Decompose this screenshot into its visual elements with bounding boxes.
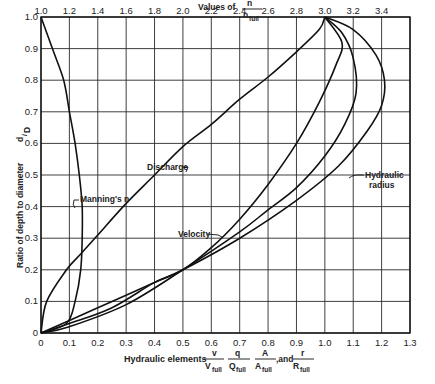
x-tick-label: 1.0 bbox=[318, 337, 331, 348]
x-axis-fractions: v V full q Q full A A full ,and r R full bbox=[204, 348, 314, 373]
y-tick-label: 0 bbox=[33, 327, 38, 338]
x-tick-label: 0.4 bbox=[148, 337, 161, 348]
annotation-mannings-n: Manning's n bbox=[80, 194, 129, 204]
annotation-velocity: Velocity bbox=[178, 229, 210, 239]
hydraulic-elements-chart: 00.10.20.30.40.50.60.70.80.91.01.11.21.3… bbox=[0, 0, 435, 384]
x-tick-label: 1.2 bbox=[375, 337, 388, 348]
x-axis-title-prefix: Hydraulic elements bbox=[124, 354, 207, 364]
top-axis-frac-den: n bbox=[243, 10, 248, 20]
y-tick-label: 0.6 bbox=[25, 137, 38, 148]
top-tick-label: 2.8 bbox=[290, 5, 303, 16]
top-axis-frac-num: n bbox=[247, 0, 252, 8]
top-tick-label: 3.2 bbox=[347, 5, 360, 16]
y-tick-label: 0.4 bbox=[25, 201, 38, 212]
y-axis-ticks: 00.10.20.30.40.50.60.70.80.91.0 bbox=[25, 11, 38, 338]
y-tick-label: 0.1 bbox=[25, 295, 38, 306]
x-tick-label: 0.6 bbox=[205, 337, 218, 348]
x-axis-and: ,and bbox=[276, 354, 293, 364]
y-tick-label: 0.2 bbox=[25, 264, 38, 275]
x-tick-label: 0.9 bbox=[290, 337, 303, 348]
frac-a-den: A bbox=[255, 361, 261, 371]
top-tick-label: 1.6 bbox=[120, 5, 133, 16]
frac-v-sub: full bbox=[212, 366, 222, 373]
frac-v-den: V bbox=[205, 361, 211, 371]
x-tick-label: 1.3 bbox=[403, 337, 416, 348]
top-tick-label: 2.0 bbox=[176, 5, 189, 16]
top-tick-label: 1.8 bbox=[148, 5, 161, 16]
x-tick-label: 0.1 bbox=[63, 337, 76, 348]
top-tick-label: 1.4 bbox=[91, 5, 104, 16]
y-tick-label: 0.9 bbox=[25, 43, 38, 54]
top-tick-label: 1.0 bbox=[34, 5, 47, 16]
top-tick-label: 2.6 bbox=[261, 5, 274, 16]
top-axis-frac-sub: full bbox=[249, 15, 259, 22]
frac-a-sub: full bbox=[262, 366, 272, 373]
annotation-hydraulic-radius-1: Hydraulic bbox=[365, 170, 404, 180]
x-tick-label: 0.5 bbox=[176, 337, 189, 348]
x-tick-label: 0.8 bbox=[261, 337, 274, 348]
annotation-hydraulic-radius-2: radius bbox=[369, 180, 395, 190]
frac-r-den: R bbox=[293, 361, 299, 371]
y-tick-label: 0.8 bbox=[25, 74, 38, 85]
x-tick-label: 1.1 bbox=[347, 337, 360, 348]
top-tick-label: 3.4 bbox=[375, 5, 388, 16]
frac-q-num: q bbox=[235, 348, 240, 358]
frac-q-den: Q bbox=[229, 361, 236, 371]
y-axis-frac-slash: / bbox=[21, 134, 28, 136]
top-tick-label: 3.0 bbox=[318, 5, 331, 16]
frac-r-num: r bbox=[301, 348, 305, 358]
x-tick-label: 0 bbox=[38, 337, 43, 348]
y-axis-title: Ratio of depth to diameter bbox=[15, 162, 25, 268]
y-tick-label: 0.3 bbox=[25, 232, 38, 243]
top-tick-label: 1.2 bbox=[63, 5, 76, 16]
x-tick-label: 0.7 bbox=[233, 337, 246, 348]
y-axis-frac-den: D bbox=[22, 127, 32, 133]
frac-a-num: A bbox=[262, 348, 268, 358]
frac-q-sub: full bbox=[236, 366, 246, 373]
x-tick-label: 0.3 bbox=[120, 337, 133, 348]
y-axis-frac-num: d bbox=[15, 137, 25, 142]
frac-v-num: v bbox=[212, 348, 217, 358]
y-tick-label: 0.5 bbox=[25, 169, 38, 180]
x-axis-ticks: 00.10.20.30.40.50.60.70.80.91.01.11.21.3 bbox=[38, 337, 416, 348]
frac-r-sub: full bbox=[300, 366, 310, 373]
y-tick-label: 0.7 bbox=[25, 106, 38, 117]
top-axis-title: Values of bbox=[198, 2, 235, 12]
x-tick-label: 0.2 bbox=[91, 337, 104, 348]
